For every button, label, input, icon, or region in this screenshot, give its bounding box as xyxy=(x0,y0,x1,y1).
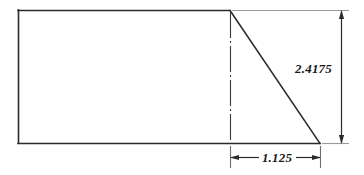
drawing-svg: 2.4175 1.125 xyxy=(0,0,364,175)
dimension-taper-arrow-left xyxy=(230,155,239,160)
object-outline xyxy=(18,10,320,144)
dimension-height: 2.4175 xyxy=(294,10,344,144)
dimension-taper-length-label: 1.125 xyxy=(262,150,293,165)
outline-diagonal-edge xyxy=(230,11,320,144)
dimension-taper-arrow-right xyxy=(312,155,321,160)
dimension-height-label: 2.4175 xyxy=(294,61,332,76)
dimension-taper-length: 1.125 xyxy=(230,150,321,165)
dimension-height-arrow-bottom xyxy=(339,135,344,144)
extension-lines xyxy=(231,11,350,169)
engineering-drawing-canvas: 2.4175 1.125 xyxy=(0,0,364,175)
dimension-height-arrow-top xyxy=(339,10,344,19)
